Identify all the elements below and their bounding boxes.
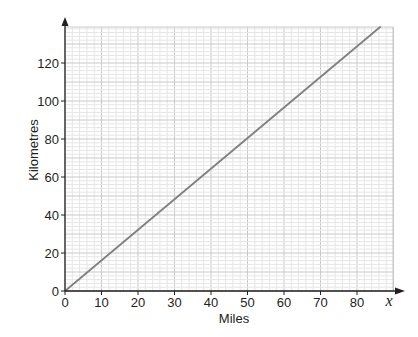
- x-tick-label: 40: [204, 295, 218, 310]
- x-axis-arrow-icon: [395, 288, 405, 295]
- x-axis-label: Miles: [219, 311, 250, 326]
- y-axis-arrow-icon: [62, 17, 69, 26]
- x-tick-label: 60: [277, 295, 291, 310]
- y-tick-label: 100: [37, 94, 59, 109]
- x-tick-label: 70: [313, 295, 327, 310]
- x-tick-label: 20: [131, 295, 145, 310]
- y-tick-label: 80: [45, 132, 59, 147]
- conversion-line: [65, 27, 381, 291]
- grid: [65, 27, 394, 291]
- x-tick-label: 50: [240, 295, 254, 310]
- y-tick-label: 0: [52, 284, 59, 299]
- plot-area: [65, 27, 381, 291]
- x-tick-label: 80: [350, 295, 364, 310]
- y-tick-label: 40: [45, 208, 59, 223]
- y-tick-label: 120: [37, 56, 59, 71]
- y-tick-label: 60: [45, 170, 59, 185]
- x-tick-label: 10: [94, 295, 108, 310]
- y-axis-label: Kilometres: [26, 119, 41, 181]
- conversion-chart: 01020304050607080020406080100120 Miles K…: [0, 0, 418, 337]
- y-tick-label: 20: [45, 246, 59, 261]
- x-tick-label: 30: [167, 295, 181, 310]
- x-variable-label: x: [384, 292, 392, 309]
- x-tick-label: 0: [61, 295, 68, 310]
